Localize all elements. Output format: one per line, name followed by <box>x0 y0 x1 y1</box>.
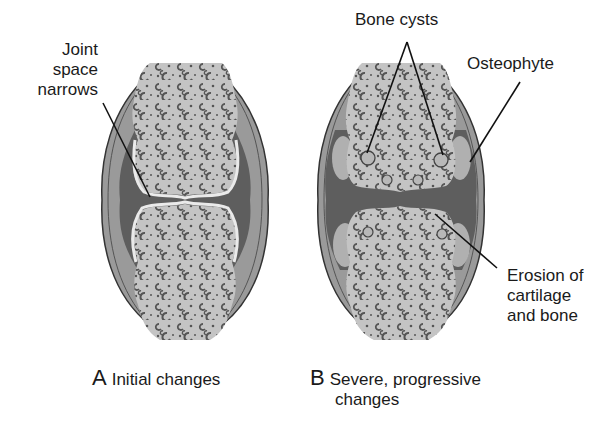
label-line: Erosion of <box>507 266 584 286</box>
caption-text-line1: Severe, progressive <box>330 370 481 389</box>
caption-panel-a: AInitial changes <box>92 368 220 390</box>
label-erosion: Erosion of cartilage and bone <box>507 266 584 326</box>
panel-letter-a: A <box>92 365 107 390</box>
label-line: narrows <box>38 80 98 100</box>
bone-cyst-left <box>361 151 375 165</box>
bone-cyst-small-2 <box>413 175 423 185</box>
caption-text-line2: changes <box>310 390 481 410</box>
panel-a-joint <box>102 63 268 340</box>
bone-cyst-right <box>434 153 448 167</box>
leader-line-osteophyte <box>470 82 520 162</box>
label-line: and bone <box>507 306 584 326</box>
label-osteophyte: Osteophyte <box>467 54 554 74</box>
caption-panel-b: BSevere, progressive changes <box>310 368 481 410</box>
panel-letter-b: B <box>310 365 325 390</box>
label-line: Joint <box>38 40 98 60</box>
label-joint-space-narrows: Joint space narrows <box>38 40 98 100</box>
bone-cyst-lower-1 <box>363 227 373 237</box>
caption-text: Initial changes <box>112 370 221 389</box>
bone-cyst-lower-2 <box>437 229 447 239</box>
label-line: space <box>38 60 98 80</box>
bone-cyst-small-1 <box>382 175 392 185</box>
label-bone-cysts: Bone cysts <box>355 10 438 30</box>
label-line: cartilage <box>507 286 584 306</box>
panel-b-joint <box>318 42 520 340</box>
